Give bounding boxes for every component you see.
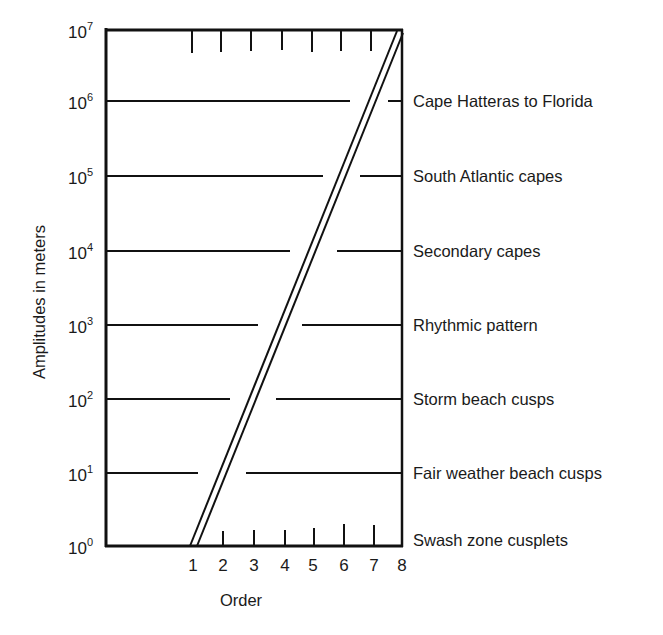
category-label-cape-hatteras: Cape Hatteras to Florida <box>413 92 594 110</box>
order-amplitude-double-line <box>190 31 403 546</box>
y-tick-label: 103 <box>68 315 93 337</box>
category-label-storm-beach-cusps: Storm beach cusps <box>413 390 554 408</box>
order-amplitude-chart: 107 106 105 104 103 102 101 100 1 2 3 4 … <box>0 0 663 635</box>
y-tick-label: 107 <box>68 20 93 42</box>
y-tick-label: 102 <box>68 389 93 411</box>
top-ticks <box>192 30 371 53</box>
category-label-swash-zone-cusplets: Swash zone cusplets <box>413 531 568 549</box>
bottom-ticks <box>223 524 374 546</box>
y-tick-label: 105 <box>68 166 93 188</box>
y-tick-label: 106 <box>68 91 93 113</box>
x-tick-label: 6 <box>339 556 348 575</box>
category-label-secondary-capes: Secondary capes <box>413 242 541 260</box>
x-tick-label: 1 <box>188 556 197 575</box>
x-tick-label: 8 <box>397 556 406 575</box>
x-tick-label: 5 <box>308 556 317 575</box>
category-label-rhythmic-pattern: Rhythmic pattern <box>413 316 538 334</box>
x-axis-title: Order <box>220 591 263 609</box>
y-tick-labels: 107 106 105 104 103 102 101 100 <box>68 20 93 558</box>
y-axis-title: Amplitudes in meters <box>30 225 48 379</box>
level-lines <box>106 101 402 473</box>
category-labels: Cape Hatteras to Florida South Atlantic … <box>413 92 602 549</box>
category-label-south-atlantic-capes: South Atlantic capes <box>413 167 563 185</box>
plot-frame <box>105 28 403 547</box>
x-tick-labels: 1 2 3 4 5 6 7 8 <box>188 556 406 575</box>
x-tick-label: 4 <box>280 556 289 575</box>
y-tick-label: 101 <box>68 463 93 485</box>
category-label-fair-weather-cusps: Fair weather beach cusps <box>413 464 602 482</box>
x-tick-label: 2 <box>218 556 227 575</box>
x-tick-label: 7 <box>369 556 378 575</box>
y-tick-label: 104 <box>68 241 93 263</box>
y-tick-label: 100 <box>68 536 93 558</box>
x-tick-label: 3 <box>249 556 258 575</box>
